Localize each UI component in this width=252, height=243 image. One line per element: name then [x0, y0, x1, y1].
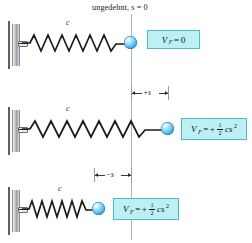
spring-stiffness-label-3: c	[58, 184, 62, 193]
formula-fraction-2: 1 2	[217, 122, 222, 135]
dimension-label-1: +s	[143, 88, 151, 97]
formula-equals-3: =	[135, 204, 140, 214]
figure-caption: ungedehnt, s = 0	[92, 3, 148, 12]
spring-coil-2	[22, 119, 168, 139]
formula-exponent-3: 2	[166, 203, 169, 209]
formula-subscript-1: F	[169, 38, 173, 45]
mass-ball-1	[124, 36, 137, 49]
mass-ball-2	[161, 122, 174, 135]
spring-stiffness-label-2: c	[66, 104, 70, 113]
formula-exponent-2: 2	[234, 123, 237, 129]
dimension-label-2: −s	[106, 170, 114, 179]
dimension-tick-right-1	[168, 86, 169, 100]
spring-coil-3	[22, 199, 98, 219]
formula-equals-1: =	[174, 35, 179, 45]
energy-formula-box-3: VF = + 1 2 cs2	[113, 198, 179, 220]
energy-formula-1: VF = 0	[162, 35, 185, 45]
energy-formula-3: VF = + 1 2 cs2	[123, 202, 169, 215]
spring-coil-1	[22, 33, 132, 53]
dimension-arrow-left-1	[132, 91, 135, 95]
dimension-arrow-right-2	[128, 173, 131, 177]
formula-fraction-denominator-2: 2	[217, 129, 222, 136]
formula-subscript-2: F	[198, 128, 202, 135]
dimension-tick-right-2	[131, 168, 132, 182]
formula-variable-2: V	[191, 124, 197, 134]
formula-subscript-3: F	[130, 208, 134, 215]
formula-fraction-3: 1 2	[149, 202, 154, 215]
energy-formula-box-1: VF = 0	[147, 30, 200, 49]
formula-term-2: cs	[225, 124, 233, 134]
wall-post-icon-2	[8, 107, 10, 155]
formula-variable-1: V	[162, 35, 168, 45]
formula-term-3: cs	[157, 204, 165, 214]
mass-ball-3	[92, 202, 105, 215]
spring-energy-figure: ungedehnt, s = 0 c VF = 0 +s	[0, 0, 252, 243]
dimension-arrow-right-1	[165, 91, 168, 95]
formula-sign-2: +	[210, 124, 215, 134]
wall-post-icon-3	[8, 187, 10, 235]
formula-value-1: 0	[181, 35, 186, 45]
formula-variable-3: V	[123, 204, 129, 214]
spring-stiffness-label-1: c	[66, 18, 70, 27]
energy-formula-box-2: VF = + 1 2 cs2	[181, 118, 247, 140]
wall-post-icon	[8, 21, 10, 69]
formula-equals-2: =	[203, 124, 208, 134]
energy-formula-2: VF = + 1 2 cs2	[191, 122, 237, 135]
formula-fraction-denominator-3: 2	[149, 209, 154, 216]
dimension-arrow-left-2	[95, 173, 98, 177]
formula-sign-3: +	[142, 204, 147, 214]
